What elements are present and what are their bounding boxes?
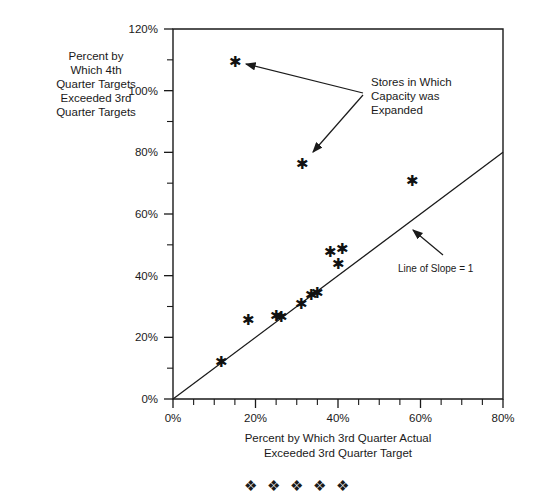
y-axis-title-line-1: Percent by xyxy=(69,50,124,62)
x-axis-tick-labels: 0% 20% 40% 60% 80% xyxy=(165,412,515,424)
x-axis-title-line-2: Exceeded 3rd Quarter Target xyxy=(264,447,413,459)
y-tick-label-20: 20% xyxy=(135,331,158,343)
data-point-marker: ✱ xyxy=(406,172,419,189)
callout-line-1: Stores in Which xyxy=(371,76,452,88)
scatter-chart-figure: Percent by Which 4th Quarter Targets Exc… xyxy=(0,0,541,501)
y-axis-title-line-2: Which 4th xyxy=(70,64,121,76)
x-tick-label-40: 40% xyxy=(326,412,349,424)
y-tick-label-0: 0% xyxy=(141,393,158,405)
y-tick-label-60: 60% xyxy=(135,208,158,220)
plot-frame xyxy=(173,29,503,399)
x-tick-label-20: 20% xyxy=(244,412,267,424)
x-tick-label-0: 0% xyxy=(165,412,182,424)
y-axis-title: Percent by Which 4th Quarter Targets Exc… xyxy=(56,50,136,118)
x-tick-label-80: 80% xyxy=(491,412,514,424)
y-tick-label-100: 100% xyxy=(129,85,158,97)
slope-label: Line of Slope = 1 xyxy=(398,263,474,274)
y-tick-label-40: 40% xyxy=(135,270,158,282)
slope-label-group: Line of Slope = 1 xyxy=(398,230,474,274)
y-tick-label-120: 120% xyxy=(129,23,158,35)
callout-leader-lines xyxy=(246,64,363,152)
y-tick-label-80: 80% xyxy=(135,146,158,158)
y-axis-title-line-3: Quarter Targets xyxy=(56,78,136,90)
leader-line-to-second-outlier xyxy=(313,95,363,152)
ornament-icon: ❖ xyxy=(267,477,280,494)
y-axis-title-line-4: Exceeded 3rd xyxy=(61,92,132,104)
ornament-icon: ❖ xyxy=(290,477,303,494)
ornament-icon: ❖ xyxy=(244,477,257,494)
y-axis-title-line-5: Quarter Targets xyxy=(56,106,136,118)
y-axis-ticks xyxy=(164,29,173,399)
callout-line-3: Expanded xyxy=(371,104,423,116)
leader-line-to-top-outlier xyxy=(246,64,363,93)
ornament-icon: ❖ xyxy=(313,477,326,494)
x-axis-ticks xyxy=(173,399,503,408)
data-point-marker: ✱ xyxy=(295,295,308,312)
callout-text: Stores in Which Capacity was Expanded xyxy=(371,76,452,116)
chart-canvas: Percent by Which 4th Quarter Targets Exc… xyxy=(0,0,541,501)
x-axis-title-line-1: Percent by Which 3rd Quarter Actual xyxy=(245,432,432,444)
callout-line-2: Capacity was xyxy=(371,90,440,102)
data-point-marker: ✱ xyxy=(311,284,324,301)
x-tick-label-60: 60% xyxy=(409,412,432,424)
data-point-marker: ✱ xyxy=(296,155,309,172)
footer-ornaments: ❖ ❖ ❖ ❖ ❖ xyxy=(244,477,349,494)
x-axis-title: Percent by Which 3rd Quarter Actual Exce… xyxy=(245,432,432,459)
data-point-marker: ✱ xyxy=(275,308,288,325)
data-point-marker: ✱ xyxy=(242,311,255,328)
leader-line-to-slope-line xyxy=(413,230,443,255)
data-point-marker: ✱ xyxy=(229,53,242,70)
ornament-icon: ❖ xyxy=(336,477,349,494)
data-point-marker: ✱ xyxy=(332,255,345,272)
data-point-marker: ✱ xyxy=(215,353,228,370)
